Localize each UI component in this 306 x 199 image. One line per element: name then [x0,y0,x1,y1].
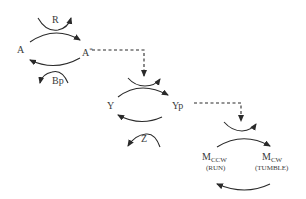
arrow-a-to-astar [30,33,80,42]
arrow-mcw-to-mccw [217,184,270,190]
node-yp: Yp [172,101,183,111]
arrow-yp-to-y [118,115,162,122]
catalyst-z: Z [141,134,147,144]
node-m-ccw-sub: CCW [211,156,227,164]
catalyst-arc-yp [128,78,160,86]
catalyst-r: R [52,15,59,25]
node-a-star-sup: * [89,46,93,54]
pathway-diagram: A A* R Bp Y Yp Z MCCW (RUN) MCW (TUMBLE) [0,0,306,199]
arrow-y-to-yp [118,88,168,97]
node-m-ccw-note: (RUN) [206,165,225,172]
node-a: A [17,45,24,55]
dashed-link-yp [194,103,241,121]
node-m-cw-label: M [262,151,271,162]
node-m-cw-note: (TUMBLE) [255,165,288,172]
arrow-mccw-to-mcw [217,139,270,147]
catalyst-bp: Bp [52,76,64,86]
catalyst-arc-m [224,122,256,131]
node-m-ccw-label: M [202,151,211,162]
node-m-cw-sub: CW [271,156,282,164]
dashed-link-astar [92,50,144,76]
node-y: Y [107,101,114,111]
node-a-star: A* [82,45,93,58]
arrow-astar-to-a [30,58,80,66]
